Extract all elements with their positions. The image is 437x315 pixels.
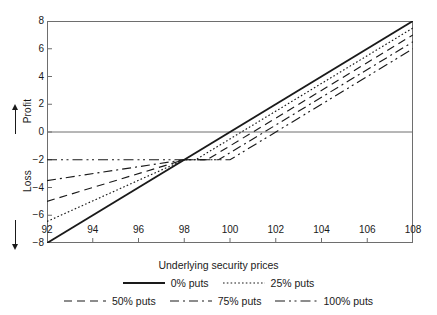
legend-item[interactable]: 100% puts [275,296,373,307]
legend-item[interactable]: 50% puts [64,296,156,307]
x-tick-label: 98 [179,225,190,235]
x-tick-label: 108 [405,225,422,235]
y-tick-label: 4 [22,72,44,82]
legend-label: 25% puts [271,278,315,289]
legend-item[interactable]: 0% puts [123,278,209,289]
y-tick-label: −4 [22,183,44,193]
x-axis-title: Underlying security prices [0,259,437,271]
x-tick-label: 94 [87,225,98,235]
y-tick-label: −6 [22,210,44,220]
x-tick-label: 104 [313,225,330,235]
legend-swatch-solid [123,279,165,287]
y-tick-label: 8 [22,16,44,26]
legend-row-2: 50% puts75% puts100% puts [0,292,437,310]
x-tick-label: 92 [41,225,52,235]
x-tick-label: 102 [267,225,284,235]
legend-swatch-dotted [223,279,265,287]
legend-swatch-dashdotdot [275,297,317,305]
legend-label: 0% puts [171,278,209,289]
x-axis-tick-labels: 92949698100102104106108 [0,225,437,245]
y-tick-label: 2 [22,99,44,109]
legend-row-1: 0% puts25% puts [0,274,437,292]
x-tick-label: 106 [359,225,376,235]
legend-item[interactable]: 75% puts [170,296,262,307]
plot-lines [47,21,413,243]
y-tick-label: 6 [22,44,44,54]
legend-label: 50% puts [112,296,156,307]
x-tick-label: 100 [222,225,239,235]
legend-swatch-dashed [64,297,106,305]
plot-area [47,21,413,243]
series-line-25-puts [47,28,413,222]
series-line-100-puts [47,49,413,160]
series-line-50-puts [47,35,413,202]
chart-legend: 0% puts25% puts 50% puts75% puts100% put… [0,274,437,310]
x-tick-label: 96 [133,225,144,235]
y-tick-label: −2 [22,155,44,165]
legend-swatch-dashdot [170,297,212,305]
legend-label: 75% puts [218,296,262,307]
legend-label: 100% puts [323,296,373,307]
chart-figure: Profit Loss 86420−2−4−6−8 92949698100102… [0,0,437,315]
y-tick-label: 0 [22,127,44,137]
legend-item[interactable]: 25% puts [223,278,315,289]
